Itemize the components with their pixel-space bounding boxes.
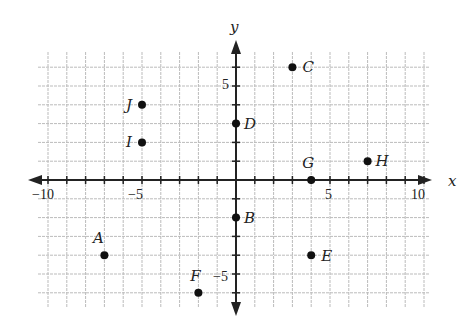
points: ABCDEFGHIJ	[91, 58, 390, 297]
point-label: C	[302, 58, 314, 76]
point-marker	[364, 157, 372, 165]
x-axis-label: x	[448, 172, 457, 190]
x-tick-label-10: 10	[411, 187, 425, 202]
point-label: I	[125, 133, 133, 151]
axes: x y −10 −5 5 10 5 −5	[28, 18, 457, 316]
point-label: G	[302, 154, 314, 172]
y-axis-label: y	[229, 18, 239, 36]
point-label: E	[320, 247, 332, 265]
point-marker	[138, 101, 146, 109]
y-axis-arrow-up	[231, 40, 241, 54]
point-label: B	[243, 209, 255, 227]
x-axis-arrow-right	[418, 175, 432, 185]
y-tick-label-neg5: −5	[213, 269, 228, 284]
point-marker	[232, 214, 240, 222]
y-axis-arrow-down	[231, 302, 241, 316]
point-marker	[307, 251, 315, 259]
point-label: A	[91, 229, 104, 247]
point-marker	[288, 63, 296, 71]
x-tick-label-5: 5	[325, 187, 332, 202]
point-marker	[138, 138, 146, 146]
point-marker	[232, 120, 240, 128]
point-marker	[100, 251, 108, 259]
point-label: F	[189, 267, 201, 285]
x-tick-label-neg5: −5	[128, 187, 143, 202]
coordinate-plane: x y −10 −5 5 10 5 −5 ABCDEFGHIJ	[0, 0, 476, 334]
point-marker	[194, 289, 202, 297]
x-axis-arrow-left	[28, 175, 42, 185]
point-label: D	[243, 115, 256, 133]
y-tick-label-5: 5	[222, 77, 229, 92]
point-marker	[307, 176, 315, 184]
x-tick-label-neg10: −10	[32, 187, 54, 202]
point-label: H	[375, 152, 390, 170]
